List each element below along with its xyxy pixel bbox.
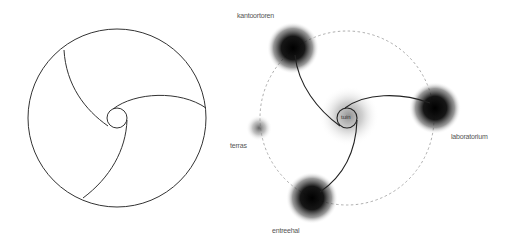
left-inner-circle bbox=[107, 108, 127, 128]
right-relation-diagram bbox=[246, 22, 461, 224]
diagram-canvas bbox=[0, 0, 513, 248]
label-kantoortoren: kantoortoren bbox=[237, 12, 274, 19]
left-arc-top bbox=[64, 50, 108, 126]
left-spiral-diagram bbox=[28, 29, 206, 207]
label-terras: terras bbox=[230, 142, 247, 149]
label-laboratorium: laboratorium bbox=[451, 133, 488, 140]
kantoortoren-blob[interactable] bbox=[267, 22, 319, 74]
left-arc-right bbox=[113, 95, 206, 109]
terras-blob bbox=[246, 115, 272, 141]
left-arc-bottom bbox=[83, 120, 127, 198]
label-entreehal: entreehal bbox=[272, 227, 299, 234]
label-tuin: tuin bbox=[341, 114, 351, 120]
left-outer-circle bbox=[28, 29, 206, 207]
laboratorium-blob[interactable] bbox=[409, 82, 461, 134]
entreehal-blob[interactable] bbox=[286, 172, 338, 224]
